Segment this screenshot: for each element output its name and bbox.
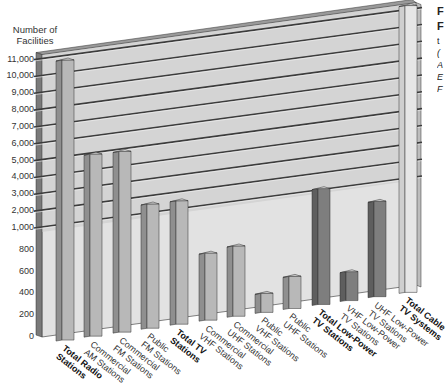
y-tick-label: 5,000 (0, 155, 34, 165)
y-tick-label: 6,000 (0, 138, 34, 148)
y-axis-title-line1: Number of (4, 24, 66, 35)
bar (113, 149, 131, 333)
y-axis-title: Number of Facilities (4, 24, 66, 46)
y-tick-label: 11,000 (0, 54, 34, 64)
bar (312, 187, 330, 306)
bar (340, 270, 358, 302)
bar (84, 152, 102, 337)
bar (399, 4, 417, 294)
y-tick-label: 2,000 (0, 205, 34, 215)
y-tick-label: 800 (0, 244, 34, 254)
y-tick-label: 200 (0, 309, 34, 319)
y-axis-title-line2: Facilities (4, 35, 66, 46)
bar (199, 251, 217, 321)
side-text-fragment: A (437, 60, 446, 70)
bar (56, 58, 74, 341)
bar (141, 202, 159, 329)
y-tick-label: 400 (0, 287, 34, 297)
y-tick-label: 1,000 (0, 222, 34, 232)
side-text-fragment: F (437, 20, 446, 32)
bar (227, 244, 245, 317)
y-tick-label: 10,000 (0, 70, 34, 80)
bar (170, 199, 188, 325)
y-tick-label: 4,000 (0, 171, 34, 181)
bar (283, 274, 301, 309)
y-tick-label: 600 (0, 266, 34, 276)
side-text-fragment: F (437, 84, 446, 94)
y-tick-label: 8,000 (0, 104, 34, 114)
y-tick-label: 7,000 (0, 121, 34, 131)
y-tick-label: 0 (0, 331, 34, 341)
bar (368, 199, 386, 297)
y-tick-label: 3,000 (0, 188, 34, 198)
side-text-fragment: ( (437, 48, 446, 58)
side-text-fragment: E (437, 72, 446, 82)
side-text-fragment: F (437, 5, 446, 17)
side-text-fragment: t (437, 36, 446, 46)
y-tick-label: 9,000 (0, 87, 34, 97)
bar (255, 291, 273, 313)
